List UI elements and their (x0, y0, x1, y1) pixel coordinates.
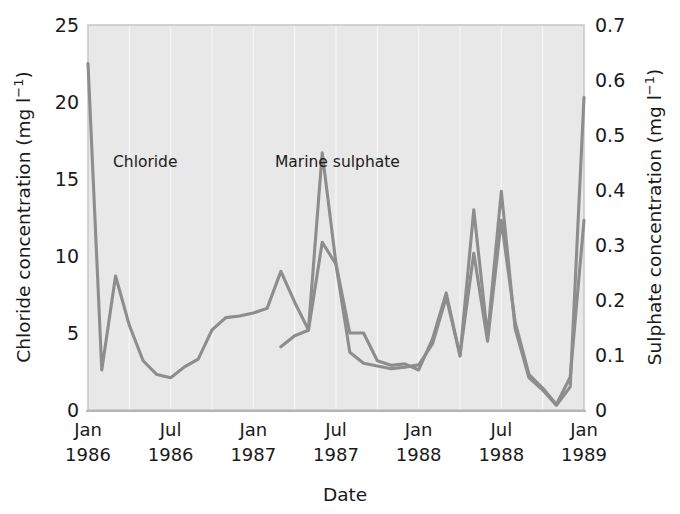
x-tick-month-4: Jan (404, 419, 433, 440)
x-tick-year-2: 1987 (230, 444, 276, 465)
y-left-tick-10: 10 (55, 245, 79, 267)
y-axis-left-ticks: 0510152025 (55, 14, 79, 421)
x-tick-month-2: Jan (238, 419, 267, 440)
x-tick-year-0: 1986 (65, 444, 111, 465)
y-axis-left-title: Chloride concentration (mg l−1) (11, 71, 34, 362)
y-left-title-sup: −1 (11, 79, 26, 98)
y-right-title-tail: ) (644, 69, 665, 76)
svg-text:Chloride concentration (mg l−1: Chloride concentration (mg l−1) (11, 71, 34, 362)
svg-text:Sulphate concentration (mg l−1: Sulphate concentration (mg l−1) (642, 69, 665, 365)
y-right-tick-0p2: 0.2 (595, 289, 625, 311)
x-tick-year-4: 1988 (396, 444, 442, 465)
y-right-tick-0p7: 0.7 (595, 14, 625, 36)
y-right-tick-0p4: 0.4 (595, 179, 625, 201)
x-tick-year-5: 1988 (478, 444, 524, 465)
chart-svg: 0510152025 00.10.20.30.40.50.60.7 Jan198… (0, 0, 680, 514)
x-axis-ticks: Jan1986Jul1986Jan1987Jul1987Jan1988Jul19… (65, 419, 607, 465)
x-tick-month-3: Jul (324, 419, 347, 440)
y-left-tick-20: 20 (55, 91, 79, 113)
x-tick-month-6: Jan (569, 419, 598, 440)
x-tick-month-5: Jul (489, 419, 512, 440)
y-right-tick-0p6: 0.6 (595, 69, 625, 91)
y-right-title-text: Sulphate concentration (mg l (644, 95, 665, 365)
chloride-annotation-label: Chloride (113, 153, 178, 171)
x-axis-title: Date (323, 484, 367, 505)
y-left-tick-0: 0 (67, 399, 79, 421)
x-tick-year-3: 1987 (313, 444, 359, 465)
x-tick-year-1: 1986 (148, 444, 194, 465)
y-right-tick-0: 0 (595, 399, 607, 421)
y-right-tick-0p1: 0.1 (595, 344, 625, 366)
x-tick-year-6: 1989 (561, 444, 607, 465)
marine-sulphate-annotation-label: Marine sulphate (275, 153, 400, 171)
y-right-tick-0p5: 0.5 (595, 124, 625, 146)
y-axis-right-ticks: 00.10.20.30.40.50.60.7 (595, 14, 625, 421)
y-right-title-sup: −1 (642, 76, 657, 95)
y-left-tick-25: 25 (55, 14, 79, 36)
y-right-tick-0p3: 0.3 (595, 234, 625, 256)
y-left-title-text: Chloride concentration (mg l (13, 98, 34, 363)
x-tick-month-0: Jan (73, 419, 102, 440)
y-axis-right-title: Sulphate concentration (mg l−1) (642, 69, 665, 365)
y-left-tick-15: 15 (55, 168, 79, 190)
y-left-tick-5: 5 (67, 322, 79, 344)
x-tick-month-1: Jul (159, 419, 182, 440)
figure-container: 0510152025 00.10.20.30.40.50.60.7 Jan198… (0, 0, 680, 514)
y-left-title-tail: ) (13, 71, 34, 78)
